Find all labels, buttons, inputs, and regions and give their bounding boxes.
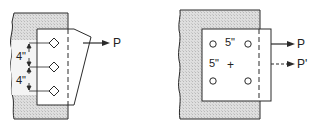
load-label-p-prime: P' — [297, 57, 307, 71]
load-label-p: P — [113, 36, 121, 50]
spacing-label-bottom: 4" — [16, 74, 26, 86]
centroid-plus-icon: + — [227, 58, 234, 72]
right-diagram: 5" 5" + P P' — [179, 10, 308, 119]
figure-canvas: 4" 4" P 5" 5" + P P' — [0, 0, 313, 131]
arrowhead-icon — [102, 40, 110, 46]
spacing-label-top: 4" — [16, 50, 26, 62]
load-label-p: P — [297, 37, 305, 51]
horizontal-spacing-label: 5" — [225, 36, 235, 48]
circle-fastener-icon — [245, 78, 251, 84]
circle-fastener-icon — [210, 41, 216, 47]
left-diagram: 4" 4" P — [11, 13, 122, 119]
circle-fastener-icon — [245, 41, 251, 47]
circle-fastener-icon — [210, 78, 216, 84]
arrowhead-icon — [287, 61, 295, 67]
vertical-spacing-label: 5" — [209, 57, 219, 69]
arrowhead-icon — [287, 41, 295, 47]
